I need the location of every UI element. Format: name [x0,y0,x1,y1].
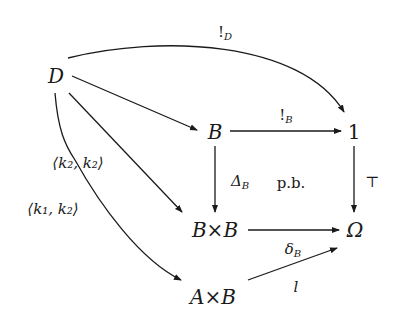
label-k1-k2: ⟨k₁, k₂⟩ [27,202,78,217]
label-top: ⊤ [365,175,379,190]
label-bang-D: !D [218,25,232,42]
label-delta-B-sub: B [294,248,301,259]
node-B: B [208,122,223,142]
arrow-D-to-AxB [55,93,181,280]
node-Omega: Ω [347,220,364,240]
label-bang-B: !B [279,108,292,125]
label-delta-B-main: δ [285,240,294,258]
label-delta-B: δB [285,242,301,259]
arrow-D-to-BxB [69,93,182,212]
arrow-D-to-1 [68,46,344,112]
node-AxB: A×B [190,287,236,307]
node-D: D [48,66,64,86]
label-Delta-B-main: Δ [231,172,242,190]
commutative-diagram: D B 1 B×B Ω A×B !D !B ΔB p.b. ⊤ ⟨k₂, k₂⟩… [0,0,400,325]
label-l: l [294,280,299,295]
label-pullback: p.b. [277,176,306,191]
label-k2-k2: ⟨k₂, k₂⟩ [52,156,103,171]
label-bang-B-sub: B [285,114,292,125]
arrow-D-to-B [72,76,197,130]
label-Delta-B-sub: B [242,180,249,191]
node-terminal-1: 1 [348,122,361,142]
label-Delta-B: ΔB [231,174,249,191]
node-BxB: B×B [192,220,238,240]
label-bang-D-sub: D [224,31,232,42]
